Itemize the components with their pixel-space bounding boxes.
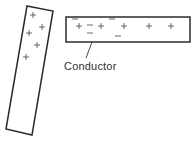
plus-charge-icon [146, 23, 152, 29]
conductor-charges [72, 19, 174, 36]
plus-charge-icon [39, 24, 45, 30]
charged-rod [6, 6, 53, 135]
plus-charge-icon [76, 23, 82, 29]
plus-charge-icon [121, 23, 127, 29]
plus-charge-icon [98, 23, 104, 29]
plus-charge-icon [30, 12, 36, 18]
conductor-box [66, 17, 190, 42]
rod-charges [23, 12, 45, 60]
plus-charge-icon [34, 42, 40, 48]
plus-charge-icon [168, 23, 174, 29]
plus-charge-icon [23, 54, 29, 60]
conductor-label: Conductor [64, 60, 117, 72]
plus-charge-icon [26, 30, 32, 36]
conductor-leader-line [86, 42, 92, 58]
